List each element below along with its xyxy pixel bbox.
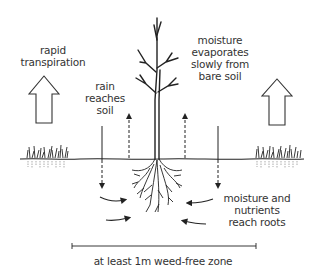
root-flow-arrows-icon bbox=[100, 197, 213, 224]
label-line: bare soil bbox=[185, 70, 255, 82]
soil-line bbox=[20, 159, 304, 160]
label-line: rapid bbox=[13, 44, 93, 56]
label-weed-free-zone: at least 1m weed-free zone bbox=[83, 255, 243, 267]
label-rain-reaches-soil: rain reaches soil bbox=[75, 80, 135, 116]
label-line: moisture and bbox=[215, 192, 299, 204]
label-line: nutrients bbox=[215, 204, 299, 216]
grass-right-icon bbox=[256, 145, 301, 168]
label-moisture-nutrients: moisture and nutrients reach roots bbox=[215, 192, 299, 228]
label-line: soil bbox=[75, 104, 135, 116]
hollow-up-arrow-right-icon bbox=[262, 79, 292, 125]
label-rapid-transpiration: rapid transpiration bbox=[13, 44, 93, 68]
label-line: moisture bbox=[185, 34, 255, 46]
tree-icon bbox=[136, 18, 178, 159]
zone-dimension-line bbox=[72, 243, 256, 249]
label-line: slowly from bbox=[185, 58, 255, 70]
diagram-canvas bbox=[0, 0, 320, 272]
hollow-up-arrow-left-icon bbox=[29, 76, 59, 123]
label-line: rain bbox=[75, 80, 135, 92]
label-line: reach roots bbox=[215, 216, 299, 228]
label-moisture-evaporates: moisture evaporates slowly from bare soi… bbox=[185, 34, 255, 82]
roots-icon bbox=[132, 159, 182, 212]
label-line: transpiration bbox=[13, 56, 93, 68]
label-line: reaches bbox=[75, 92, 135, 104]
label-line: at least 1m weed-free zone bbox=[83, 255, 243, 267]
label-line: evaporates bbox=[185, 46, 255, 58]
grass-left-icon bbox=[27, 145, 68, 168]
